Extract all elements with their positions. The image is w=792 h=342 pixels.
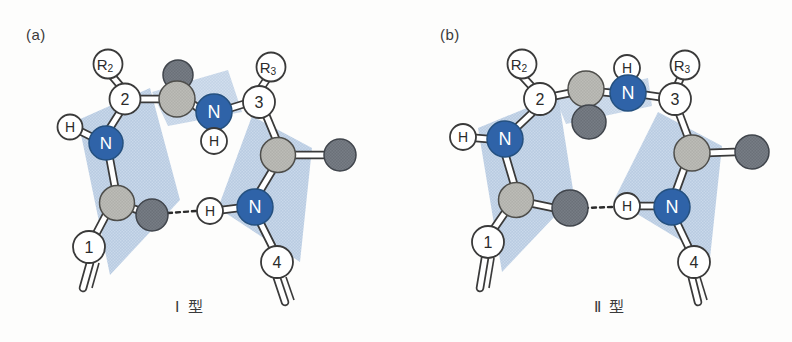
tail-c4-line2-b	[700, 277, 707, 300]
atom-calpha-3-b: 3	[659, 83, 691, 115]
atom-n-left-a: N	[89, 126, 123, 160]
atom-h-left-b: H	[450, 124, 476, 150]
atom-r2-a: R2	[94, 50, 123, 79]
atom-n-mid-b: N	[610, 75, 646, 111]
atom-oxygen-right-b	[735, 135, 769, 169]
atom-calpha-1-b: 1	[472, 226, 504, 258]
atom-oxygen-right-a	[324, 139, 356, 171]
atom-calpha-3-a: 3	[243, 86, 275, 118]
atom-carbon-left-a	[100, 186, 135, 221]
atom-carbon-mid-b	[568, 71, 604, 107]
panel-caption-a: Ⅰ 型	[175, 298, 204, 315]
atom-oxygen-mid-b	[572, 105, 606, 139]
atom-carbon-left-b	[499, 183, 534, 218]
panel-tag-a: (a)	[26, 26, 46, 43]
panel-caption-b: Ⅱ 型	[594, 298, 626, 315]
atom-carbon-mid-a	[159, 81, 195, 117]
atom-carbon-right-a	[261, 138, 296, 173]
atom-h-hbond-b: H	[614, 193, 640, 219]
figure-container: R2 2 H N 1 N	[0, 0, 792, 342]
peptide-plane-right-b	[614, 112, 722, 258]
atom-n-mid-a: N	[196, 94, 232, 130]
atom-calpha-4-b: 4	[678, 246, 710, 278]
atom-n-right-b: N	[654, 189, 690, 225]
atom-r2-b: R2	[508, 50, 537, 79]
atom-calpha-4-a: 4	[261, 246, 293, 278]
atom-r3-a: R3	[257, 53, 286, 82]
atom-h-hbond-a: H	[197, 198, 223, 224]
double-bond-tails-b	[489, 258, 707, 300]
atom-oxygen-left-b	[552, 190, 588, 226]
atom-calpha-2-a: 2	[110, 84, 141, 115]
atom-h-left-a: H	[58, 115, 83, 140]
atom-calpha-2-b: 2	[524, 83, 556, 115]
tail-c1-line2-b	[489, 258, 494, 288]
atom-n-left-b: N	[487, 121, 523, 157]
panel-b-beta-turn-type-2: R2 2 H N 1 H N	[396, 0, 792, 342]
atom-n-right-a: N	[237, 189, 273, 225]
atom-oxygen-left-a	[136, 199, 168, 231]
atom-calpha-1-a: 1	[73, 231, 105, 263]
hydrogen-bond-a	[168, 211, 196, 213]
panel-tag-b: (b)	[440, 26, 460, 43]
panel-a-beta-turn-type-1: R2 2 H N 1 N	[0, 0, 396, 342]
atom-r3-b: R3	[671, 51, 700, 80]
atom-carbon-right-b	[674, 135, 710, 171]
atom-h-mid-a: H	[201, 128, 227, 154]
